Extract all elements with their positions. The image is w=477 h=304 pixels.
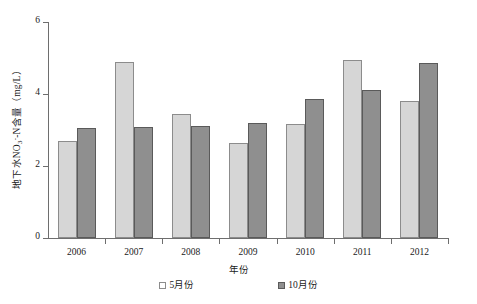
y-tick-4	[43, 94, 48, 95]
bar-2010-october	[305, 99, 324, 238]
x-tick-label-2012: 2012	[394, 247, 444, 257]
bar-2010-may	[286, 124, 305, 238]
y-axis-title-subscript: 3	[16, 140, 24, 144]
bar-2011-may	[343, 60, 362, 238]
x-tick-2011	[391, 239, 392, 244]
bar-2009-october	[248, 123, 267, 238]
y-axis-title-superscript: -	[11, 138, 19, 141]
y-axis-line	[48, 22, 49, 239]
x-tick-2009	[277, 239, 278, 244]
y-tick-label-6: 6	[24, 16, 40, 26]
bar-2008-october	[191, 126, 210, 238]
bar-2006-october	[77, 128, 96, 238]
chart-legend: 5月份 10月份	[0, 281, 477, 291]
x-axis-title: 年份	[0, 262, 477, 276]
y-tick-6	[43, 22, 48, 23]
bar-2011-october	[362, 90, 381, 238]
bar-2012-october	[419, 63, 438, 238]
x-tick-label-2010: 2010	[280, 247, 330, 257]
legend-entry-october: 10月份	[278, 281, 318, 291]
y-axis-title: 地下水NO3--N含量（mg/L）	[9, 27, 23, 227]
bar-2008-may	[172, 114, 191, 238]
y-tick-0	[43, 238, 48, 239]
bar-2012-may	[400, 101, 419, 238]
x-tick-2008	[219, 239, 220, 244]
x-tick-label-2008: 2008	[166, 247, 216, 257]
legend-swatch-icon-october	[278, 282, 285, 289]
y-tick-label-0: 0	[24, 232, 40, 242]
y-tick-label-2: 2	[24, 160, 40, 170]
legend-label-may: 5月份	[169, 281, 194, 291]
y-tick-2	[43, 166, 48, 167]
x-axis-line	[48, 238, 449, 239]
legend-entry-may: 5月份	[159, 281, 194, 291]
legend-swatch-icon-may	[159, 282, 166, 289]
x-tick-label-2011: 2011	[337, 247, 387, 257]
x-tick-label-2007: 2007	[109, 247, 159, 257]
plot-area: 0246 2006200720082009201020112012	[48, 22, 448, 238]
x-tick-2012	[448, 239, 449, 244]
x-tick-2006	[105, 239, 106, 244]
x-tick-2007	[162, 239, 163, 244]
y-axis-title-prefix: 地下水NO	[12, 144, 22, 189]
x-tick-label-2006: 2006	[52, 247, 102, 257]
x-tick-2010	[334, 239, 335, 244]
bar-2007-may	[115, 62, 134, 238]
y-axis-title-suffix: -N含量（mg/L）	[12, 65, 22, 138]
bar-2009-may	[229, 143, 248, 238]
x-tick-label-2009: 2009	[223, 247, 273, 257]
bar-chart: 地下水NO3--N含量（mg/L） 0246 20062007200820092…	[0, 0, 477, 304]
legend-label-october: 10月份	[288, 281, 318, 291]
y-tick-label-4: 4	[24, 88, 40, 98]
bar-2006-may	[58, 141, 77, 238]
bar-2007-october	[134, 127, 153, 238]
